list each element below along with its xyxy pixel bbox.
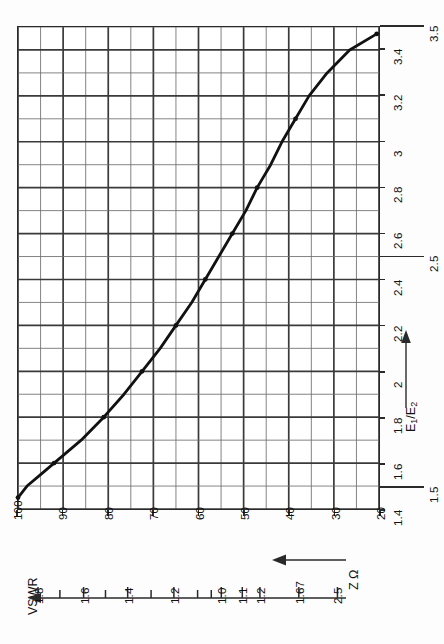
vswr-scale (28, 598, 358, 600)
x-axis-title-text: E (404, 424, 418, 432)
chart-figure: 1.41.51.61.822.22.42.52.62.833.23.43.5 E… (0, 0, 444, 644)
x-axis-tick-label: 3.5 (428, 25, 440, 42)
data-point-marker (101, 415, 106, 420)
vswr-tick-label: 1.4 (123, 587, 135, 604)
x-axis-tick-label: 1.8 (392, 417, 404, 434)
vswr-tick-label: 1.2 (169, 587, 181, 604)
x-axis-title-sub1: 1 (409, 419, 419, 424)
x-axis-tick-label: 2.4 (392, 279, 404, 296)
vswr-tick-label: 1.2 (255, 587, 267, 604)
y-axis-tick-label: 40 (284, 507, 296, 520)
x-axis-tick-label: 3.2 (392, 95, 404, 112)
series-line (18, 34, 377, 498)
y-axis-tick-label: 60 (194, 507, 206, 520)
x-tick-mark (380, 463, 385, 465)
x-tick-extension-line (380, 25, 424, 27)
data-point-marker (374, 31, 379, 36)
y-axis-tick-label: 80 (103, 507, 115, 520)
x-tick-mark (380, 94, 385, 96)
x-tick-mark (380, 187, 385, 189)
x-tick-mark (380, 233, 385, 235)
x-axis-tick-label: 2.5 (428, 256, 440, 273)
x-axis-tick-label: 3 (392, 151, 404, 158)
x-axis-tick-label: 2.8 (392, 187, 404, 204)
data-point-marker (293, 116, 298, 121)
x-tick-mark (380, 371, 385, 373)
y-axis-tick-label: 30 (330, 507, 342, 520)
vswr-tick-label: 2.5 (332, 587, 344, 604)
vswr-tick-label: 1.1 (237, 587, 249, 604)
vswr-tick-label: 1.8 (33, 587, 45, 604)
plot-area (17, 26, 380, 510)
vswr-tick-label: 1.0 (216, 587, 228, 604)
y-axis-tick-label: 90 (57, 507, 69, 520)
data-point-marker (255, 185, 260, 190)
x-tick-mark (380, 141, 385, 143)
y-axis-tick-label: 100 (12, 500, 24, 520)
data-point-marker (140, 369, 145, 374)
x-tick-extension-line (380, 256, 424, 258)
data-point-marker (174, 323, 179, 328)
data-point-marker (230, 231, 235, 236)
arrow-left-icon (272, 552, 348, 568)
x-tick-mark (380, 48, 385, 50)
vswr-tick-label: 1.6 (79, 587, 91, 604)
data-point-marker (16, 495, 21, 500)
y-axis-tick-label: 50 (239, 507, 251, 520)
data-point-marker (203, 277, 208, 282)
x-axis-tick-label: 3.4 (392, 48, 404, 65)
arrow-up-icon (398, 330, 414, 410)
x-axis-tick-label: 2.6 (392, 233, 404, 250)
x-axis-tick-label: 1.4 (392, 509, 404, 526)
x-axis-tick-label: 1.5 (428, 486, 440, 503)
data-point-marker (52, 461, 57, 466)
x-axis-tick-label: 1.6 (392, 463, 404, 480)
x-tick-extension-line (380, 486, 424, 488)
data-curve (18, 27, 379, 509)
vswr-tick-label: 1.67 (294, 581, 306, 604)
x-tick-mark (380, 279, 385, 281)
x-tick-mark (380, 325, 385, 327)
y-axis-tick-label: 70 (148, 507, 160, 520)
x-tick-mark (380, 417, 385, 419)
y-axis-tick-label: 20 (375, 507, 387, 520)
